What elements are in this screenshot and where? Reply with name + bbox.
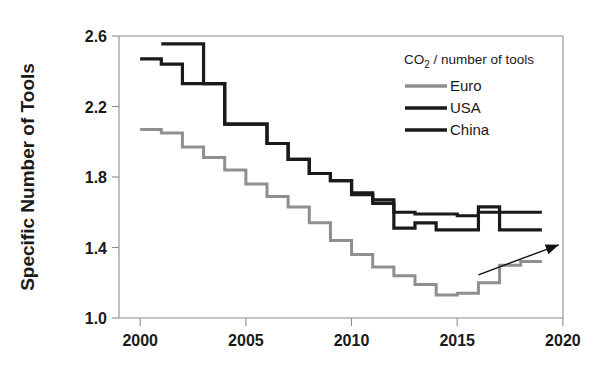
x-tick-label-2: 2010 [334, 332, 370, 349]
legend-item-china[interactable]: China [405, 121, 490, 138]
y-axis-tick-labels: 1.0 1.4 1.8 2.2 2.6 [85, 28, 107, 327]
legend-label-china: China [450, 121, 490, 138]
chart-legend: CO2 / number of tools Euro USA China [404, 52, 534, 138]
chart-figure: 1.0 1.4 1.8 2.2 2.6 Specific Number of T… [0, 0, 611, 377]
annotation-layer [478, 245, 558, 275]
legend-title-main: CO [404, 52, 424, 67]
y-tick-label-0: 1.0 [85, 310, 107, 327]
legend-title-tail: / number of tools [430, 52, 535, 67]
legend-label-usa: USA [450, 99, 481, 116]
x-tick-label-3: 2015 [439, 332, 475, 349]
upward-trend-arrow-head [545, 245, 559, 255]
line-chart: 1.0 1.4 1.8 2.2 2.6 Specific Number of T… [0, 0, 611, 377]
y-tick-label-1: 1.4 [85, 240, 107, 257]
legend-label-euro: Euro [450, 77, 482, 94]
legend-title: CO2 / number of tools [404, 52, 534, 70]
y-axis-ticks [112, 36, 119, 318]
y-tick-label-3: 2.2 [85, 99, 107, 116]
x-axis-tick-labels: 2000 2005 2010 2015 2020 [122, 332, 580, 349]
x-axis-ticks [140, 318, 563, 326]
x-tick-label-0: 2000 [122, 332, 158, 349]
legend-item-euro[interactable]: Euro [405, 77, 482, 94]
plot-frame [119, 36, 563, 318]
legend-item-usa[interactable]: USA [405, 99, 481, 116]
y-tick-label-4: 2.6 [85, 28, 107, 45]
x-tick-label-1: 2005 [228, 332, 264, 349]
y-axis-title: Specific Number of Tools [17, 63, 38, 291]
y-tick-label-2: 1.8 [85, 169, 107, 186]
x-tick-label-4: 2020 [545, 332, 581, 349]
